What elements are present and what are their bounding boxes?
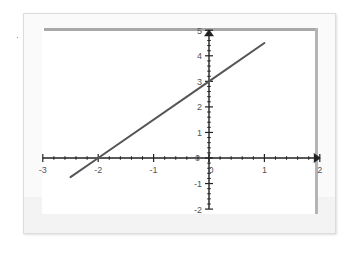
x-tick-label: -2 [94,165,102,175]
y-tick-label: 5 [197,26,202,36]
y-tick-label: -2 [194,205,202,215]
y-tick-label: 1 [197,128,202,138]
series-line [71,43,265,177]
y-tick-label: -1 [194,179,202,189]
x-tick-label: 1 [262,165,267,175]
y-tick-label: 2 [197,102,202,112]
x-tick-label: -1 [150,165,158,175]
data-series [71,43,265,177]
x-tick-label: 0 [208,165,213,175]
tick-labels: -3-2-1012-2-1012345 [39,26,323,215]
x-tick-label: 2 [317,165,322,175]
axes [43,29,321,209]
y-tick-label: 0 [195,153,200,163]
line-chart: -3-2-1012-2-1012345 [0,0,356,260]
axis-ticks [43,30,320,209]
x-tick-label: -3 [39,165,47,175]
y-tick-label: 4 [197,51,202,61]
y-tick-label: 3 [197,77,202,87]
